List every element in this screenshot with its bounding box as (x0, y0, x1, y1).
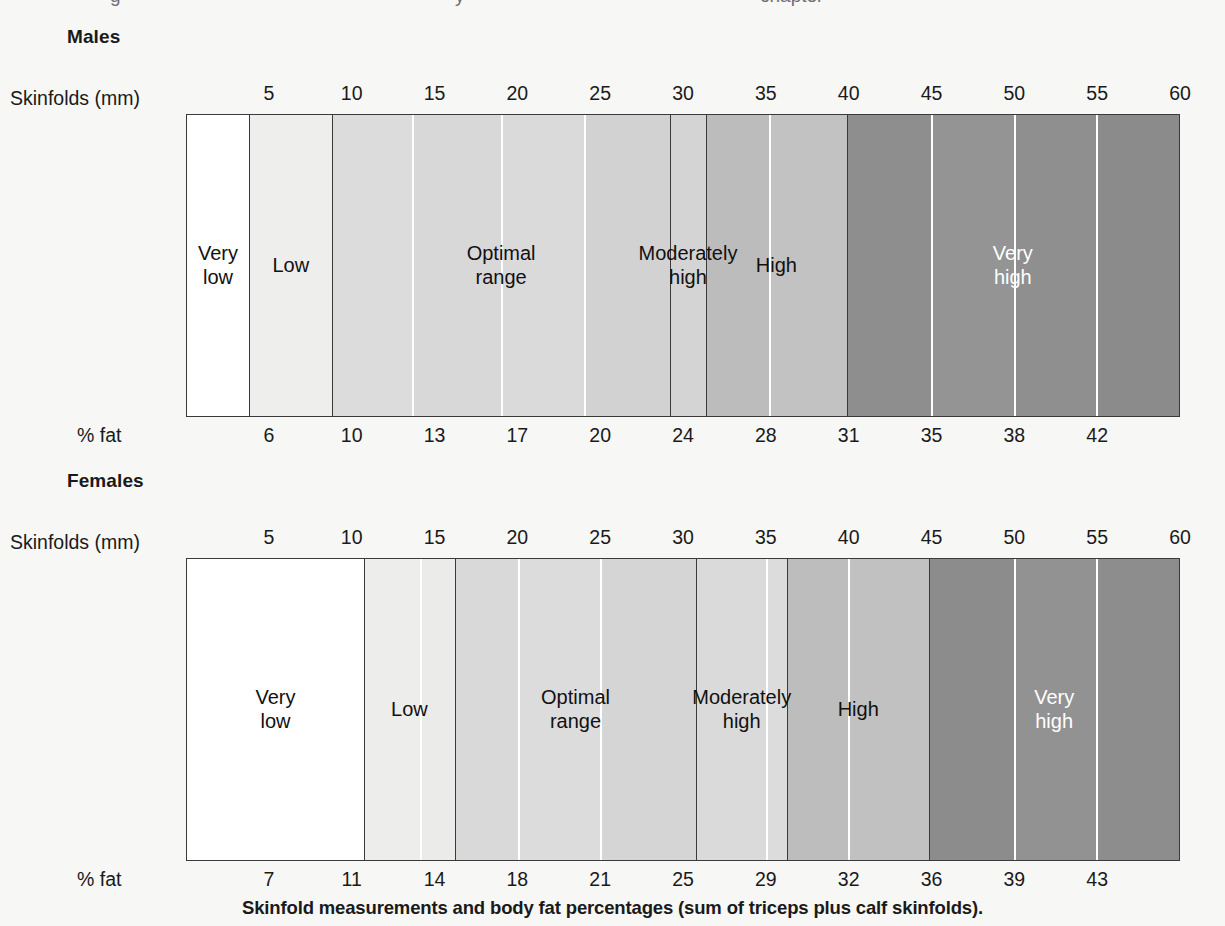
scale-tick-males-55: 55 (1086, 82, 1108, 105)
pctfat-tick-females-11: 11 (342, 868, 362, 891)
band-males-3 (412, 115, 501, 416)
scale-tick-males-5: 5 (263, 82, 274, 105)
figure-caption: Skinfold measurements and body fat perce… (0, 897, 1225, 919)
scale-tick-males-60: 60 (1169, 82, 1191, 105)
band-males-8 (769, 115, 847, 416)
chart-title-females: Females (67, 470, 144, 492)
band-females-1 (364, 559, 420, 860)
scale-tick-females-10: 10 (341, 526, 363, 549)
pctfat-tick-males-31: 31 (838, 424, 860, 447)
scale-tick-females-50: 50 (1003, 526, 1025, 549)
scale-ticks-males: 51015202530354045505560 (186, 82, 1180, 108)
band-females-8 (787, 559, 848, 860)
band-males-9 (847, 115, 931, 416)
scale-tick-females-35: 35 (755, 526, 777, 549)
scale-tick-females-60: 60 (1169, 526, 1191, 549)
cutoff-fragment-b: y (455, 0, 465, 7)
axis-label-skinfolds-males: Skinfolds (mm) (10, 87, 140, 110)
pctfat-tick-males-13: 13 (424, 424, 446, 447)
band-females-5 (600, 559, 696, 860)
cutoff-fragment-c: chapter (760, 0, 823, 7)
band-females-7 (766, 559, 787, 860)
band-males-7 (706, 115, 769, 416)
pctfat-tick-males-20: 20 (589, 424, 611, 447)
band-males-2 (332, 115, 411, 416)
scale-tick-females-25: 25 (589, 526, 611, 549)
pctfat-tick-females-18: 18 (506, 868, 528, 891)
scale-tick-males-50: 50 (1003, 82, 1025, 105)
band-females-11 (1014, 559, 1097, 860)
band-males-4 (501, 115, 584, 416)
cutoff-fragment-a: g (110, 0, 121, 7)
band-females-9 (848, 559, 929, 860)
scale-tick-females-20: 20 (506, 526, 528, 549)
chart-title-males: Males (67, 26, 120, 48)
scale-tick-males-40: 40 (838, 82, 860, 105)
pctfat-tick-females-25: 25 (672, 868, 694, 891)
pctfat-tick-males-42: 42 (1086, 424, 1108, 447)
scale-tick-males-35: 35 (755, 82, 777, 105)
pctfat-tick-females-21: 21 (589, 868, 611, 891)
band-males-1 (249, 115, 332, 416)
pctfat-tick-males-17: 17 (506, 424, 528, 447)
pctfat-ticks-males: 610131720242831353842 (186, 424, 1180, 450)
pctfat-tick-males-24: 24 (672, 424, 694, 447)
band-males-11 (1014, 115, 1097, 416)
band-males-12 (1096, 115, 1179, 416)
band-males-10 (931, 115, 1014, 416)
axis-label-skinfolds-females: Skinfolds (mm) (10, 531, 140, 554)
scale-tick-females-15: 15 (424, 526, 446, 549)
scale-tick-females-55: 55 (1086, 526, 1108, 549)
pctfat-ticks-females: 711141821252932363943 (186, 868, 1180, 894)
scale-tick-males-30: 30 (672, 82, 694, 105)
band-females-6 (696, 559, 765, 860)
band-track-males: Very lowLowOptimal rangeModerately highH… (186, 114, 1180, 417)
band-track-females: Very lowLowOptimal rangeModerately highH… (186, 558, 1180, 861)
band-females-10 (929, 559, 1013, 860)
band-females-4 (518, 559, 601, 860)
scale-tick-males-10: 10 (341, 82, 363, 105)
pctfat-tick-males-35: 35 (921, 424, 943, 447)
scale-tick-females-30: 30 (672, 526, 694, 549)
band-females-3 (455, 559, 518, 860)
pctfat-tick-females-29: 29 (755, 868, 777, 891)
band-males-0 (187, 115, 249, 416)
axis-label-pctfat-males: % fat (77, 424, 121, 447)
pctfat-tick-females-39: 39 (1003, 868, 1025, 891)
pctfat-tick-females-43: 43 (1086, 868, 1108, 891)
scale-tick-males-15: 15 (424, 82, 446, 105)
band-females-12 (1096, 559, 1179, 860)
pctfat-tick-males-6: 6 (263, 424, 274, 447)
pctfat-tick-females-32: 32 (838, 868, 860, 891)
scale-tick-males-25: 25 (589, 82, 611, 105)
scale-tick-females-45: 45 (921, 526, 943, 549)
cutoff-top-text-strip: g y chapter (0, 0, 1225, 14)
scale-tick-males-45: 45 (921, 82, 943, 105)
band-females-0 (187, 559, 364, 860)
pctfat-tick-females-36: 36 (921, 868, 943, 891)
pctfat-tick-males-10: 10 (341, 424, 363, 447)
scale-tick-females-5: 5 (263, 526, 274, 549)
scale-tick-males-20: 20 (506, 82, 528, 105)
axis-label-pctfat-females: % fat (77, 868, 121, 891)
band-females-2 (420, 559, 455, 860)
pctfat-tick-males-28: 28 (755, 424, 777, 447)
band-males-6 (670, 115, 706, 416)
pctfat-tick-females-14: 14 (424, 868, 446, 891)
scale-ticks-females: 51015202530354045505560 (186, 526, 1180, 552)
pctfat-tick-females-7: 7 (263, 868, 274, 891)
pctfat-tick-males-38: 38 (1003, 424, 1025, 447)
band-males-5 (584, 115, 670, 416)
scale-tick-females-40: 40 (838, 526, 860, 549)
